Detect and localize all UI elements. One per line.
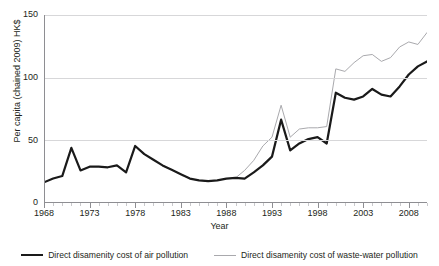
- x-tick-minor-1991: [254, 203, 255, 206]
- x-tick-minor-1989: [236, 203, 237, 206]
- x-tick-minor-2009: [418, 203, 419, 206]
- cut-off-title-fragment: [0, 0, 439, 4]
- x-tick-label-1968: 1968: [24, 208, 64, 218]
- y-axis-title: Per capita (chained 2009) HK$: [12, 1, 22, 161]
- x-tick-minor-2005: [381, 203, 382, 206]
- x-tick-minor-1974: [99, 203, 100, 206]
- x-tick-minor-1979: [144, 203, 145, 206]
- line-swatch-icon-waste-water: [214, 255, 236, 256]
- x-tick-label-1988: 1988: [206, 208, 246, 218]
- x-tick-minor-1996: [299, 203, 300, 206]
- x-tick-minor-1985: [199, 203, 200, 206]
- x-tick-minor-1984: [190, 203, 191, 206]
- legend-item-waste-water[interactable]: Direct disamenity cost of waste-water po…: [214, 250, 418, 260]
- x-tick-label-2008: 2008: [389, 208, 429, 218]
- x-tick-minor-1970: [62, 203, 63, 206]
- legend-item-air[interactable]: Direct disamenity cost of air pollution: [21, 250, 188, 260]
- x-tick-minor-2004: [372, 203, 373, 206]
- x-tick-label-1978: 1978: [115, 208, 155, 218]
- x-tick-minor-1976: [117, 203, 118, 206]
- x-tick-minor-1981: [163, 203, 164, 206]
- x-tick-minor-1987: [217, 203, 218, 206]
- chart-legend: Direct disamenity cost of air pollution …: [0, 248, 439, 262]
- x-tick-label-1993: 1993: [252, 208, 292, 218]
- x-tick-minor-1992: [263, 203, 264, 206]
- x-tick-label-2003: 2003: [343, 208, 383, 218]
- x-tick-label-1973: 1973: [70, 208, 110, 218]
- x-tick-minor-1977: [126, 203, 127, 206]
- x-tick-minor-1994: [281, 203, 282, 206]
- x-tick-label-1998: 1998: [298, 208, 338, 218]
- chart-figure: 150 100 50 0 Per capita (chained 2009) H…: [0, 0, 439, 266]
- legend-label-air: Direct disamenity cost of air pollution: [48, 250, 188, 260]
- x-tick-minor-1990: [245, 203, 246, 206]
- x-tick-minor-1982: [172, 203, 173, 206]
- line-swatch-icon-air: [21, 254, 43, 256]
- x-axis-title: Year: [0, 221, 439, 231]
- x-tick-minor-1997: [308, 203, 309, 206]
- x-tick-minor-1975: [108, 203, 109, 206]
- x-tick-label-1983: 1983: [161, 208, 201, 218]
- x-tick-minor-1972: [80, 203, 81, 206]
- x-tick-minor-2002: [354, 203, 355, 206]
- x-tick-minor-1986: [208, 203, 209, 206]
- x-tick-minor-2000: [336, 203, 337, 206]
- x-tick-minor-1999: [327, 203, 328, 206]
- x-tick-minor-1969: [53, 203, 54, 206]
- x-tick-minor-2010: [427, 203, 428, 206]
- plot-area: [44, 15, 427, 203]
- x-tick-minor-2007: [400, 203, 401, 206]
- x-tick-minor-2001: [345, 203, 346, 206]
- y-tick-label-0: 0: [8, 198, 38, 207]
- x-tick-minor-2006: [391, 203, 392, 206]
- x-tick-minor-1980: [153, 203, 154, 206]
- plot-axis-frame: [44, 15, 427, 203]
- legend-label-waste-water: Direct disamenity cost of waste-water po…: [241, 250, 418, 260]
- x-axis-tick-labels: 196819731978198319881993199820032008: [0, 208, 439, 220]
- x-tick-minor-1995: [290, 203, 291, 206]
- x-tick-minor-1971: [71, 203, 72, 206]
